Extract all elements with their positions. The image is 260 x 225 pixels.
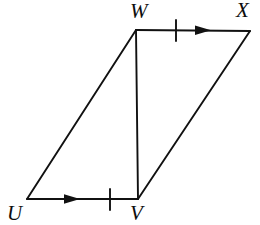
segment-wx — [136, 30, 250, 31]
vertex-label-v: V — [130, 203, 143, 224]
vertex-label-u: U — [7, 203, 22, 224]
segment-vx — [138, 31, 250, 199]
vertex-label-w: W — [130, 1, 148, 22]
segment-uw — [27, 30, 136, 199]
direction-arrow-wx — [195, 25, 211, 35]
figure-canvas — [0, 0, 260, 225]
direction-arrow-uv — [64, 194, 80, 204]
geometry-figure: W X U V — [0, 0, 260, 225]
vertex-label-x: X — [236, 0, 249, 21]
segment-wv — [136, 30, 138, 199]
